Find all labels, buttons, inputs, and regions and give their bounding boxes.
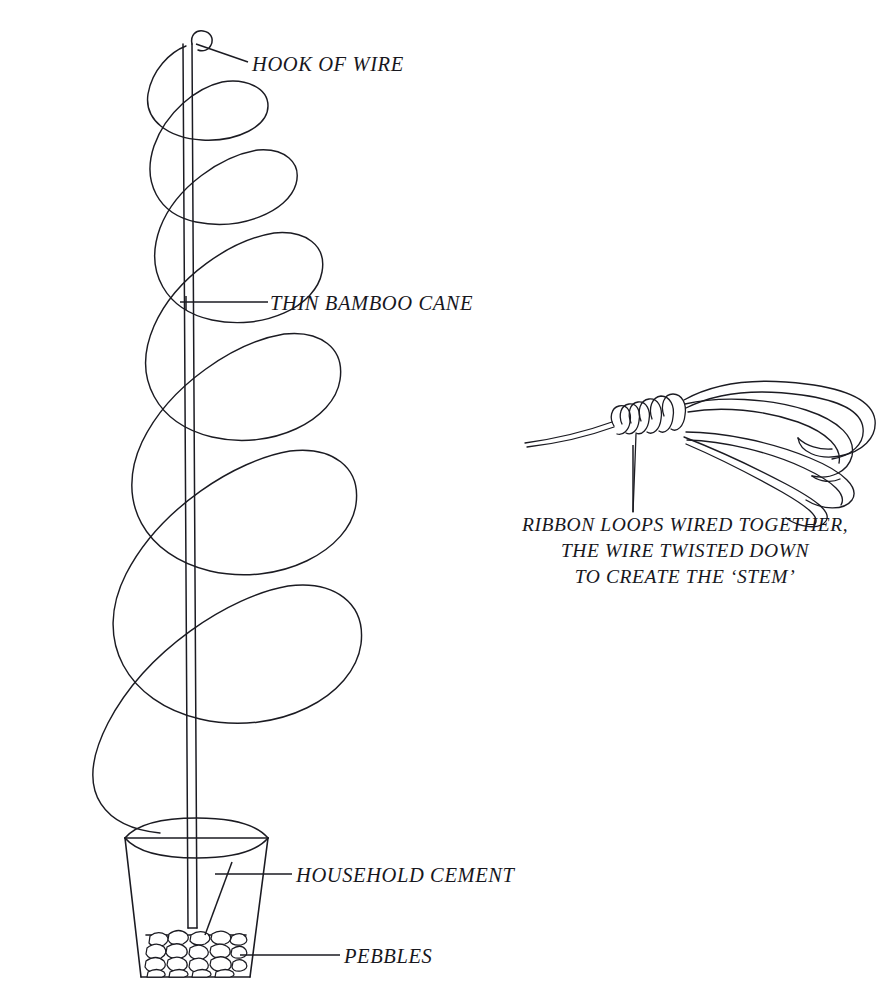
label-hook-of-wire: HOOK OF WIRE [251, 53, 404, 75]
label-ribbon-detail-line-1: RIBBON LOOPS WIRED TOGETHER, [521, 514, 848, 535]
wire-tail-lower [527, 427, 614, 447]
bamboo-cane [183, 31, 212, 928]
ribbon-loops [684, 381, 875, 526]
pot-left-wall [125, 838, 141, 977]
leader-hook-of-wire [196, 44, 248, 62]
label-thin-bamboo-cane: THIN BAMBOO CANE [270, 292, 473, 314]
cane-right-edge [192, 44, 197, 928]
pebble-bed [145, 931, 247, 978]
label-ribbon-detail-line-3: TO CREATE THE ‘STEM’ [575, 566, 796, 587]
ribbon-loop-detail: RIBBON LOOPS WIRED TOGETHER, THE WIRE TW… [521, 381, 875, 587]
wire-stem [525, 422, 636, 512]
spiral-wire [93, 46, 362, 833]
pot-right-wall [250, 838, 268, 977]
diagram-canvas: HOOK OF WIRE THIN BAMBOO CANE HOUSEHOLD … [0, 0, 894, 1007]
label-ribbon-detail-line-2: THE WIRE TWISTED DOWN [561, 540, 810, 561]
wire-spiral-ribbon-tree-figure: HOOK OF WIRE THIN BAMBOO CANE HOUSEHOLD … [0, 0, 894, 1007]
ribbon-loop-3-outer [686, 432, 854, 508]
label-pebbles: PEBBLES [343, 945, 432, 967]
cane-left-edge [183, 44, 188, 928]
label-household-cement: HOUSEHOLD CEMENT [295, 864, 516, 886]
ribbon-loop-4-inner [686, 444, 816, 524]
wire-binding [611, 394, 685, 434]
binding-coil-4 [639, 399, 661, 433]
leader-household-cement-stem [205, 862, 232, 935]
spiral-wire-path [93, 46, 362, 833]
